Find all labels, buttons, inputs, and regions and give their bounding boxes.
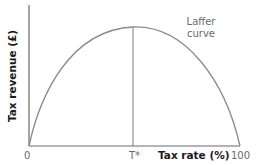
t-star-label: T* (129, 150, 140, 161)
laffer-curve-label: Laffer curve (179, 16, 223, 40)
x-max-label: 100 (231, 150, 250, 161)
x-axis-title: Tax rate (%) (158, 149, 230, 161)
laffer-curve (29, 27, 240, 146)
y-axis-title: Tax revenue (£) (1, 5, 23, 146)
origin-label: 0 (24, 150, 30, 161)
